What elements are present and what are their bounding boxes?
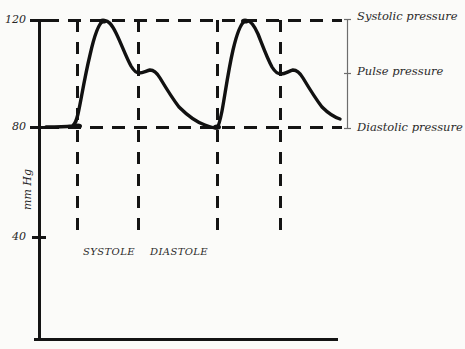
marker-diastolic-1 — [74, 123, 82, 128]
marker-systolic-peak-2 — [241, 18, 249, 23]
phase-label-diastole: DIASTOLE — [150, 247, 208, 257]
annotation-pulse-pressure: Pulse pressure — [357, 66, 443, 78]
y-tick-label-120: 120 — [2, 14, 26, 25]
reference-lines — [46, 21, 342, 128]
y-tick-label-80: 80 — [2, 121, 26, 132]
blood-pressure-figure: 120 80 40 mm Hg SYSTOLE DIASTOLE Systoli… — [0, 0, 465, 349]
axis-lines — [34, 20, 338, 341]
pressure-waveform — [46, 21, 340, 128]
annotation-systolic-pressure: Systolic pressure — [357, 11, 457, 23]
phase-label-systole: SYSTOLE — [83, 247, 135, 257]
y-tick-label-40: 40 — [2, 231, 26, 242]
marker-diastolic-2 — [213, 124, 221, 129]
marker-systolic-peak-1 — [99, 18, 107, 23]
pulse-pressure-brace — [344, 19, 351, 129]
y-axis-title: mm Hg — [22, 169, 33, 210]
annotation-diastolic-pressure: Diastolic pressure — [357, 122, 463, 134]
figure-canvas — [0, 0, 465, 349]
